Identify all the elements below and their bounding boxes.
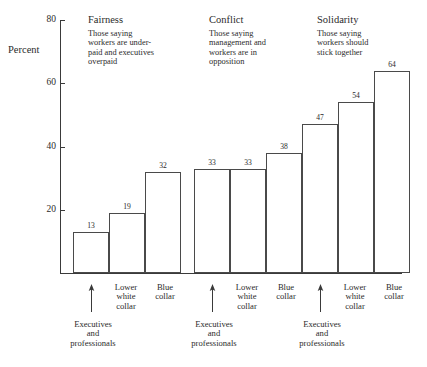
group-subtitle-fairness-line2: workers are under- bbox=[88, 38, 184, 47]
group-heading-fairness: Fairness Those saying workers are under-… bbox=[88, 14, 184, 66]
bar-fairness-blue-collar bbox=[145, 172, 181, 273]
bar-value-conflict-executives: 33 bbox=[194, 159, 230, 167]
group-subtitle-conflict-line3: workers are in bbox=[209, 48, 305, 57]
up-arrow-icon-solidarity bbox=[316, 284, 325, 312]
x-label-conflict-executives: Executives and professionals bbox=[181, 320, 247, 348]
y-tick-label-40-wrap: 40 bbox=[24, 142, 56, 152]
x-label-solidarity-executives: Executives and professionals bbox=[289, 320, 355, 348]
bar-conflict-executives bbox=[194, 169, 230, 273]
x-label-solidarity-blue-collar: Blue collar bbox=[373, 283, 415, 302]
group-subtitle-fairness-line1: Those saying bbox=[88, 29, 184, 38]
group-subtitle-conflict-line4: opposition bbox=[209, 57, 305, 66]
y-tick-label-80-wrap: 80 bbox=[24, 15, 56, 25]
y-tick-mark-40 bbox=[61, 147, 65, 148]
bar-value-conflict-blue-collar: 38 bbox=[266, 143, 302, 151]
y-tick-label-20: 20 bbox=[24, 205, 56, 215]
group-subtitle-fairness-line3: paid and executives bbox=[88, 48, 184, 57]
bar-value-solidarity-lower-white-collar: 54 bbox=[338, 92, 374, 100]
y-tick-mark-60 bbox=[61, 83, 65, 84]
bar-value-fairness-lower-white-collar: 19 bbox=[109, 203, 145, 211]
bar-chart: Percent 80 60 40 20 Fairness Those sayin… bbox=[0, 0, 427, 367]
y-tick-label-60: 60 bbox=[24, 78, 56, 88]
x-label-line2: collar bbox=[144, 292, 186, 301]
x-label-line3: collar bbox=[225, 302, 269, 311]
up-arrow-icon-fairness bbox=[87, 284, 96, 312]
group-title-conflict: Conflict bbox=[209, 14, 305, 26]
x-label-fairness-blue-collar: Blue collar bbox=[144, 283, 186, 302]
bar-solidarity-executives bbox=[302, 124, 338, 273]
group-subtitle-conflict-line1: Those saying bbox=[209, 29, 305, 38]
x-axis-line bbox=[60, 273, 402, 274]
group-heading-conflict: Conflict Those saying management and wor… bbox=[209, 14, 305, 66]
x-label-line2: collar bbox=[265, 292, 307, 301]
y-tick-label-40: 40 bbox=[24, 142, 56, 152]
up-arrow-icon-conflict bbox=[208, 284, 217, 312]
y-tick-mark-80 bbox=[61, 20, 65, 21]
x-label-fairness-lower-white-collar: Lower white collar bbox=[104, 283, 148, 311]
x-label-conflict-blue-collar: Blue collar bbox=[265, 283, 307, 302]
bar-conflict-lower-white-collar bbox=[230, 169, 266, 273]
x-label-line2: collar bbox=[373, 292, 415, 301]
y-axis-title: Percent bbox=[8, 44, 60, 55]
group-subtitle-solidarity-line1: Those saying bbox=[317, 29, 413, 38]
x-label-conflict-lower-white-collar: Lower white collar bbox=[225, 283, 269, 311]
bar-value-fairness-executives: 13 bbox=[73, 222, 109, 230]
group-title-solidarity: Solidarity bbox=[317, 14, 413, 26]
group-subtitle-conflict-line2: management and bbox=[209, 38, 305, 47]
group-heading-solidarity: Solidarity Those saying workers should s… bbox=[317, 14, 413, 57]
group-subtitle-solidarity-line3: stick together bbox=[317, 48, 413, 57]
bar-fairness-executives bbox=[73, 232, 109, 273]
x-label-line3: collar bbox=[104, 302, 148, 311]
bar-conflict-blue-collar bbox=[266, 153, 302, 273]
bar-value-conflict-lower-white-collar: 33 bbox=[230, 159, 266, 167]
group-subtitle-fairness-line4: overpaid bbox=[88, 57, 184, 66]
x-label-solidarity-lower-white-collar: Lower white collar bbox=[333, 283, 377, 311]
x-label-line3: professionals bbox=[181, 339, 247, 348]
bar-solidarity-lower-white-collar bbox=[338, 102, 374, 273]
bar-value-solidarity-blue-collar: 64 bbox=[374, 61, 410, 69]
group-title-fairness: Fairness bbox=[88, 14, 184, 26]
y-tick-label-20-wrap: 20 bbox=[24, 205, 56, 215]
bar-value-fairness-blue-collar: 32 bbox=[145, 162, 181, 170]
bar-solidarity-blue-collar bbox=[374, 71, 410, 273]
y-tick-mark-20 bbox=[61, 210, 65, 211]
y-tick-label-80: 80 bbox=[24, 15, 56, 25]
bar-value-solidarity-executives: 47 bbox=[302, 114, 338, 122]
x-label-line3: professionals bbox=[289, 339, 355, 348]
y-tick-label-60-wrap: 60 bbox=[24, 78, 56, 88]
x-label-fairness-executives: Executives and professionals bbox=[60, 320, 126, 348]
x-label-line3: professionals bbox=[60, 339, 126, 348]
bar-fairness-lower-white-collar bbox=[109, 213, 145, 273]
x-label-line3: collar bbox=[333, 302, 377, 311]
group-subtitle-solidarity-line2: workers should bbox=[317, 38, 413, 47]
